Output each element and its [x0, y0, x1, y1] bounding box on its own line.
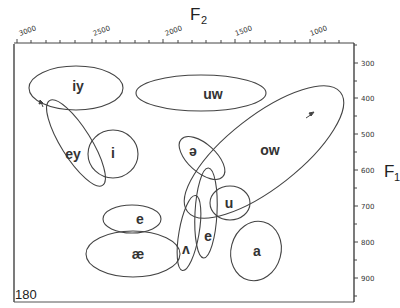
f1-subscript: 1	[394, 171, 400, 183]
y-tick-700: 700	[361, 203, 374, 211]
label-ae: æ	[132, 246, 144, 262]
region-e	[103, 205, 161, 233]
vowel-formant-chart: 3000 2500 2000 1500 1000 F 2 300 400 500…	[0, 0, 400, 308]
label-iy: iy	[72, 78, 84, 94]
x-tick-2500: 2500	[92, 24, 111, 38]
label-a: a	[253, 243, 261, 259]
vowel-regions	[29, 64, 363, 287]
x-tick-3000: 3000	[18, 24, 37, 38]
label-wedge: ʌ	[182, 241, 190, 257]
y-tick-800: 800	[361, 239, 374, 247]
x-axis-ticks	[17, 39, 339, 43]
x-tick-2000: 2000	[164, 24, 183, 38]
y-axis-tick-labels: 300 400 500 600 700 800 900	[361, 60, 374, 283]
plot-frame	[14, 43, 354, 302]
x-axis-title: F 2	[190, 5, 207, 26]
label-uw: uw	[203, 86, 223, 102]
x-axis-tick-labels: 3000 2500 2000 1500 1000	[18, 24, 328, 38]
label-ow: ow	[260, 142, 280, 158]
arrow-icon	[306, 112, 314, 118]
label-schwa-upper: ə	[189, 143, 197, 159]
label-i: i	[111, 145, 115, 161]
y-tick-500: 500	[361, 131, 374, 139]
f1-label: F	[384, 162, 394, 181]
y-tick-400: 400	[361, 95, 374, 103]
region-ey	[37, 93, 115, 194]
y-tick-900: 900	[361, 275, 374, 283]
label-ey: ey	[65, 146, 81, 162]
region-schwa-upper	[172, 129, 232, 187]
region-wedge	[173, 194, 206, 272]
x-tick-1000: 1000	[309, 24, 328, 38]
label-schwa-lower: ə	[204, 230, 212, 246]
f2-subscript: 2	[201, 14, 207, 26]
corner-label: 180	[15, 287, 37, 302]
arrow-icon	[39, 100, 43, 107]
region-uw	[136, 75, 266, 111]
x-tick-1500: 1500	[234, 24, 253, 38]
y-tick-300: 300	[361, 60, 374, 68]
f2-label: F	[190, 5, 200, 24]
label-e: e	[136, 211, 144, 227]
y-axis-title: F 1	[384, 162, 400, 183]
label-u: u	[225, 195, 234, 211]
y-tick-600: 600	[361, 167, 374, 175]
